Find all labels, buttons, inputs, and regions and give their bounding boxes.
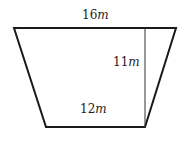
bottom-base-label: 12m (80, 103, 107, 115)
top-base-unit: m (97, 8, 108, 22)
bottom-base-unit: m (95, 102, 106, 116)
height-value: 11 (113, 55, 128, 69)
top-base-label: 16m (82, 9, 109, 21)
height-unit: m (128, 55, 139, 69)
bottom-base-value: 12 (80, 102, 95, 116)
top-base-value: 16 (82, 8, 97, 22)
height-label: 11m (113, 56, 140, 68)
